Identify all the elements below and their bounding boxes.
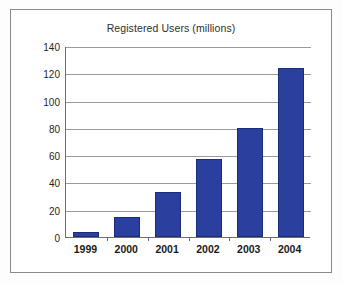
bar-2000 (114, 217, 140, 237)
y-axis-tick-label: 100 (43, 96, 60, 107)
x-axis-label-2001: 2001 (155, 243, 178, 255)
y-axis-tick-label: 40 (49, 178, 60, 189)
gridline (66, 47, 311, 48)
chart-figure: Registered Users (millions) 020406080100… (0, 0, 343, 284)
y-axis-tick-label: 120 (43, 69, 60, 80)
y-axis-tick-label: 20 (49, 205, 60, 216)
bar-2001 (155, 192, 181, 237)
x-axis-label-2004: 2004 (278, 243, 301, 255)
x-axis-tick (148, 237, 149, 241)
gridline (66, 183, 311, 184)
gridline (66, 74, 311, 75)
y-axis-tick-label: 60 (49, 151, 60, 162)
plot-area: 020406080100120140 (65, 47, 310, 238)
bar-2004 (278, 68, 304, 237)
x-axis-tick (270, 237, 271, 241)
y-axis-tick-label: 140 (43, 42, 60, 53)
x-axis-tick (107, 237, 108, 241)
x-axis-tick (189, 237, 190, 241)
chart-title: Registered Users (millions) (10, 22, 332, 34)
x-axis-label-1999: 1999 (74, 243, 97, 255)
bar-2002 (196, 159, 222, 237)
gridline (66, 156, 311, 157)
gridline (66, 102, 311, 103)
gridline (66, 211, 311, 212)
gridline (66, 129, 311, 130)
bar-2003 (237, 128, 263, 237)
y-axis-tick-label: 80 (49, 123, 60, 134)
x-axis-tick (229, 237, 230, 241)
x-axis-label-2002: 2002 (196, 243, 219, 255)
bar-1999 (73, 232, 99, 237)
y-axis-tick-label: 0 (54, 233, 60, 244)
x-axis-label-2000: 2000 (115, 243, 138, 255)
x-axis-label-2003: 2003 (237, 243, 260, 255)
